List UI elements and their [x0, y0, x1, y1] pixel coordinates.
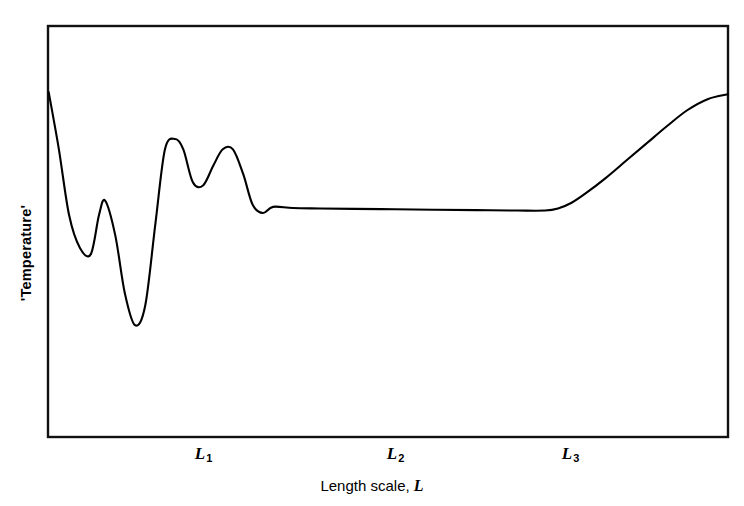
- x-axis-label: Length scale, L: [0, 477, 744, 495]
- x-tick-label-l3: L3: [562, 444, 579, 464]
- x-axis-label-variable: L: [414, 477, 424, 494]
- x-tick-label-l3-base: L: [562, 444, 572, 463]
- x-tick-label-l1-sub: 1: [206, 452, 212, 464]
- axis-frame: [48, 26, 728, 437]
- x-tick-label-l1: L1: [195, 444, 212, 464]
- x-tick-label-l2-sub: 2: [398, 452, 404, 464]
- x-tick-label-l3-sub: 3: [573, 452, 579, 464]
- x-tick-label-l2: L2: [387, 444, 404, 464]
- chart-plot-area: [0, 0, 744, 506]
- chart-figure: 'Temperature' L1 L2 L3 Length scale, L: [0, 0, 744, 506]
- x-axis-label-text: Length scale,: [320, 477, 409, 494]
- x-tick-label-l2-base: L: [387, 444, 397, 463]
- x-tick-label-l1-base: L: [195, 444, 205, 463]
- temperature-curve: [49, 92, 728, 325]
